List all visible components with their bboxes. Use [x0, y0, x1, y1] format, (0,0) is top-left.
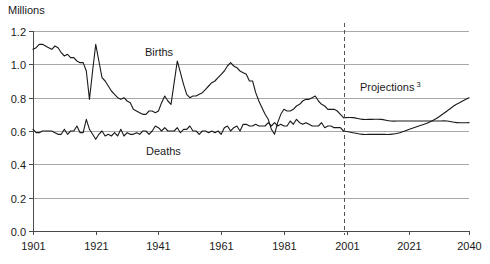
series-path-births — [33, 44, 344, 134]
y-tick-label-0.0: 0.0 — [11, 226, 26, 238]
series-path-births-projection — [344, 118, 469, 123]
projections-footnote-marker: 3 — [416, 80, 420, 89]
axis-tick-labels-group: 0.00.20.40.60.81.01.21901192119411961198… — [11, 26, 482, 253]
y-tick-label-0.4: 0.4 — [11, 159, 26, 171]
x-tick-label-1981: 1981 — [272, 240, 296, 252]
y-tick-label-1.0: 1.0 — [11, 59, 26, 71]
x-tick-label-1901: 1901 — [21, 240, 45, 252]
chart-figure: 0.00.20.40.60.81.01.21901192119411961198… — [0, 0, 490, 264]
series-label-births: Births — [145, 46, 174, 58]
y-tick-label-0.2: 0.2 — [11, 193, 26, 205]
x-tick-label-2021: 2021 — [397, 240, 421, 252]
x-tick-label-2040: 2040 — [457, 240, 481, 252]
series-label-deaths: Deaths — [146, 145, 181, 157]
series-label-projections: Projections3 — [360, 80, 421, 93]
y-axis-unit-label: Millions — [8, 4, 45, 16]
x-tick-label-1961: 1961 — [209, 240, 233, 252]
births-deaths-line-chart: 0.00.20.40.60.81.01.21901192119411961198… — [0, 0, 490, 264]
series-path-deaths — [33, 119, 344, 139]
y-tick-label-0.6: 0.6 — [11, 126, 26, 138]
y-tick-label-1.2: 1.2 — [11, 26, 26, 38]
axis-ticks-group — [29, 32, 470, 236]
y-tick-label-0.8: 0.8 — [11, 93, 26, 105]
x-tick-label-1921: 1921 — [84, 240, 108, 252]
x-tick-label-2001: 2001 — [335, 240, 359, 252]
projections-text: Projections — [360, 81, 415, 93]
series-path-deaths-projection — [344, 98, 469, 135]
x-tick-label-1941: 1941 — [146, 240, 170, 252]
